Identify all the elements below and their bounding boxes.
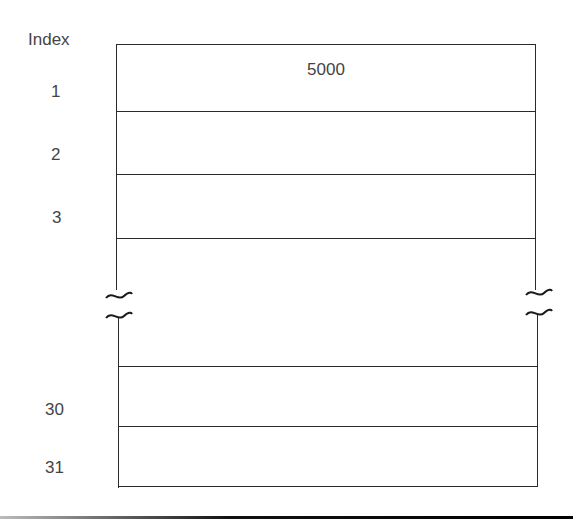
row-divider-2-3 <box>117 174 536 175</box>
index-label-31: 31 <box>45 458 64 478</box>
index-header: Index <box>28 30 70 50</box>
index-label-1: 1 <box>51 82 60 102</box>
array-left-border-lower <box>118 318 119 488</box>
index-label-2: 2 <box>51 145 60 165</box>
row-divider-30-31 <box>118 426 537 427</box>
array-bottom-border <box>118 486 538 487</box>
break-symbol-left-icon <box>104 288 136 328</box>
row-divider-1-2 <box>116 111 536 112</box>
array-right-border-lower <box>537 315 538 487</box>
array-top-border <box>116 44 536 45</box>
index-label-30: 30 <box>45 400 64 420</box>
break-symbol-right-icon <box>524 285 556 325</box>
index-label-3: 3 <box>52 208 61 228</box>
cell-value-1: 5000 <box>116 60 536 80</box>
array-left-border-upper <box>116 44 117 290</box>
array-right-border-upper <box>535 44 536 290</box>
row-divider-gap-30 <box>118 366 537 367</box>
row-divider-3-gap <box>117 238 536 239</box>
